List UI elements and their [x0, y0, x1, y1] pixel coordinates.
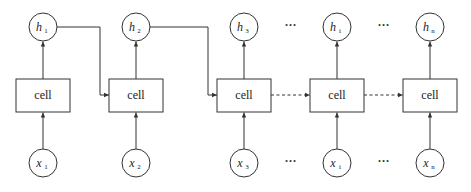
- input-node-circle: [230, 149, 258, 177]
- input-node-subscript: 2: [137, 163, 141, 171]
- input-node: x1: [29, 149, 57, 177]
- hidden-state-node-circle: [122, 13, 150, 41]
- hidden-state-node-circle: [416, 13, 444, 41]
- input-node-subscript: n: [431, 163, 435, 171]
- input-node-circle: [416, 149, 444, 177]
- hidden-state-node-subscript: 1: [44, 27, 48, 35]
- input-node-subscript: 1: [44, 163, 48, 171]
- hidden-state-node-circle: [230, 13, 258, 41]
- input-ellipsis: ···: [377, 154, 389, 168]
- input-node: x3: [230, 149, 258, 177]
- cell-label: cell: [235, 88, 253, 102]
- cell-node: cell: [310, 79, 364, 112]
- hidden-state-node-subscript: n: [431, 27, 435, 35]
- hidden-state-node-subscript: i: [339, 27, 341, 35]
- hidden-state-node-symbol: h: [423, 20, 429, 34]
- input-node-circle: [122, 149, 150, 177]
- hidden-state-node-symbol: h: [237, 20, 243, 34]
- cell-node: cell: [16, 79, 70, 112]
- input-node-symbol: x: [35, 156, 42, 170]
- hidden-state-node-circle: [29, 13, 57, 41]
- input-node-subscript: 3: [245, 163, 249, 171]
- hidden-state-node-subscript: 2: [137, 27, 141, 35]
- hidden-state-node: h3: [230, 13, 258, 41]
- input-node-symbol: x: [128, 156, 135, 170]
- input-node-symbol: x: [422, 156, 429, 170]
- input-node: xn: [416, 149, 444, 177]
- hidden-ellipsis: ···: [377, 18, 389, 32]
- input-ellipsis: ···: [284, 154, 296, 168]
- hidden-state-node-circle: [323, 13, 351, 41]
- input-node-symbol: x: [236, 156, 243, 170]
- nodes-layer: cellh1x1cellh2x2cellh3x3cellhixicellhnxn: [16, 13, 457, 177]
- cell-label: cell: [328, 88, 346, 102]
- hidden-state-node-symbol: h: [129, 20, 135, 34]
- input-node-circle: [323, 149, 351, 177]
- cell-label: cell: [421, 88, 439, 102]
- hidden-ellipsis: ···: [284, 18, 296, 32]
- cell-label: cell: [127, 88, 145, 102]
- input-node-circle: [29, 149, 57, 177]
- input-node-subscript: i: [339, 163, 341, 171]
- cell-label: cell: [34, 88, 52, 102]
- input-node-symbol: x: [329, 156, 336, 170]
- hidden-state-node-symbol: h: [330, 20, 336, 34]
- cell-node: cell: [403, 79, 457, 112]
- hidden-state-node-subscript: 3: [245, 27, 249, 35]
- hidden-state-node: h2: [122, 13, 150, 41]
- hidden-state-node: hi: [323, 13, 351, 41]
- rnn-unrolled-diagram: cellh1x1cellh2x2cellh3x3cellhixicellhnxn…: [0, 0, 471, 192]
- cell-node: cell: [217, 79, 271, 112]
- cell-node: cell: [109, 79, 163, 112]
- input-node: x2: [122, 149, 150, 177]
- hidden-state-node-symbol: h: [36, 20, 42, 34]
- input-node: xi: [323, 149, 351, 177]
- hidden-state-node: hn: [416, 13, 444, 41]
- hidden-state-node: h1: [29, 13, 57, 41]
